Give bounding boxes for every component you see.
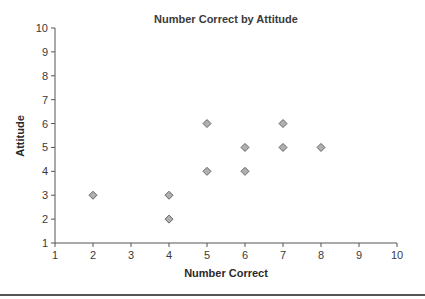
divider-line xyxy=(0,294,425,296)
data-point-marker xyxy=(89,191,97,199)
x-tick-label: 6 xyxy=(242,249,248,261)
x-tick-label: 8 xyxy=(318,249,324,261)
data-point-marker xyxy=(203,167,211,175)
scatter-chart: Number Correct by Attitude 12345678910 1… xyxy=(0,0,425,299)
x-tick-label: 9 xyxy=(356,249,362,261)
y-tick-label: 5 xyxy=(42,141,48,153)
y-tick-label: 1 xyxy=(42,237,48,249)
x-tick-label: 5 xyxy=(204,249,210,261)
y-tick-label: 6 xyxy=(42,118,48,130)
y-tick-label: 7 xyxy=(42,94,48,106)
y-axis-label: Attitude xyxy=(14,115,26,157)
chart-title: Number Correct by Attitude xyxy=(154,13,298,25)
x-tick-label: 1 xyxy=(52,249,58,261)
y-tick-label: 8 xyxy=(42,70,48,82)
data-point-marker xyxy=(279,120,287,128)
y-tick-label: 2 xyxy=(42,213,48,225)
data-point-marker xyxy=(203,120,211,128)
x-tick-label: 7 xyxy=(280,249,286,261)
x-tick-label: 3 xyxy=(128,249,134,261)
data-point-marker xyxy=(279,143,287,151)
data-point-marker xyxy=(165,191,173,199)
y-tick-label: 3 xyxy=(42,189,48,201)
data-point-marker xyxy=(241,143,249,151)
y-axis: 12345678910 xyxy=(36,22,55,249)
y-tick-label: 4 xyxy=(42,165,48,177)
data-points xyxy=(89,120,325,224)
y-tick-label: 10 xyxy=(36,22,48,34)
data-point-marker xyxy=(317,143,325,151)
x-tick-label: 10 xyxy=(391,249,403,261)
data-point-marker xyxy=(241,167,249,175)
x-axis: 12345678910 xyxy=(52,243,403,261)
x-axis-label: Number Correct xyxy=(184,267,268,279)
data-point-marker xyxy=(165,215,173,223)
y-tick-label: 9 xyxy=(42,46,48,58)
x-tick-label: 2 xyxy=(90,249,96,261)
x-tick-label: 4 xyxy=(166,249,172,261)
